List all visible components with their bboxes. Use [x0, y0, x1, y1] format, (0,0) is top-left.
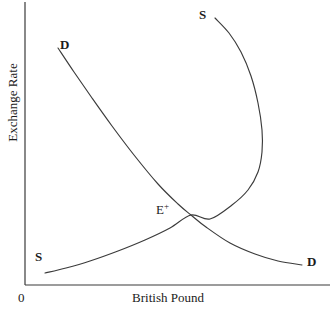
demand-curve-label-top: D	[60, 38, 69, 51]
chart-curves	[45, 18, 302, 273]
chart-canvas	[0, 0, 336, 311]
supply-curve-label-top: S	[199, 8, 206, 21]
supply-curve	[45, 18, 263, 273]
demand-curve-label-bottom: D	[307, 255, 316, 268]
chart-axes	[25, 2, 330, 285]
equilibrium-base: E	[156, 202, 164, 217]
exchange-rate-supply-demand-chart: D D S S E+ 0 British Pound Exchange Rate	[0, 0, 336, 311]
equilibrium-point-label: E+	[156, 203, 169, 216]
equilibrium-superscript: +	[164, 201, 169, 211]
supply-curve-label-bottom: S	[35, 250, 42, 263]
y-axis-label: Exchange Rate	[6, 43, 19, 163]
demand-curve	[58, 48, 302, 265]
x-axis-label: British Pound	[0, 291, 336, 304]
